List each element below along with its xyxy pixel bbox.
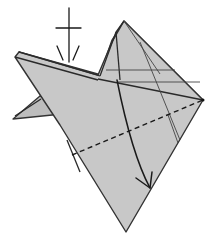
right-point-dot — [202, 99, 205, 102]
push-symbol-icon — [56, 8, 81, 62]
origami-diagram — [0, 0, 212, 241]
